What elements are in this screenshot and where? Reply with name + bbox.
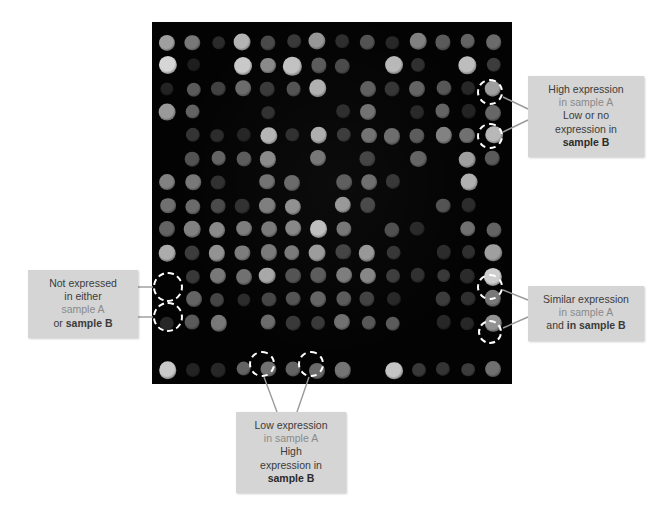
array-spot [185, 152, 200, 167]
array-spot [436, 292, 451, 307]
array-spot [185, 199, 200, 214]
array-spot [287, 35, 301, 49]
array-spot [384, 128, 400, 144]
array-spot [285, 221, 301, 237]
array-spot [436, 199, 451, 214]
array-spot [187, 58, 201, 72]
array-spot [360, 291, 375, 306]
array-spot [185, 104, 200, 119]
array-spot [234, 57, 252, 75]
array-spot [233, 34, 250, 51]
array-spot [236, 269, 252, 285]
array-spot [309, 80, 327, 98]
array-spot [360, 35, 374, 49]
array-spot [460, 34, 475, 49]
array-spot [410, 151, 426, 167]
array-spot [437, 315, 452, 330]
callout-line: and in sample B [536, 319, 636, 332]
callout-line-emphasis: sample B [66, 317, 113, 329]
array-spot [310, 127, 327, 144]
array-spot [435, 35, 450, 50]
array-spot [159, 56, 177, 74]
array-spot [237, 293, 250, 306]
array-spot [485, 151, 500, 166]
array-spot [459, 151, 476, 168]
highlight-similar-1 [477, 274, 503, 300]
array-spot [209, 245, 225, 261]
array-spot [461, 81, 475, 95]
array-spot [261, 106, 275, 120]
array-spot [185, 35, 200, 50]
array-spot [461, 291, 476, 306]
callout-line: in sample A [244, 432, 338, 445]
array-spot [336, 221, 351, 236]
array-spot [384, 222, 399, 237]
array-spot [186, 128, 200, 142]
array-spot [436, 81, 451, 96]
array-spot [360, 268, 376, 284]
array-spot [336, 35, 350, 49]
array-spot [334, 197, 350, 213]
callout-high-expression: High expressionin sample ALow or noexpre… [528, 76, 644, 157]
array-spot [160, 83, 173, 96]
array-spot [159, 245, 176, 262]
array-spot [210, 293, 224, 307]
array-spot [210, 268, 226, 284]
array-spot [460, 128, 476, 144]
callout-line: Low expression [244, 419, 338, 432]
array-spot [260, 35, 275, 50]
array-spot [311, 316, 325, 330]
array-spot [335, 362, 352, 379]
array-spot [335, 59, 349, 73]
array-spot [337, 128, 351, 142]
array-spot [286, 82, 301, 97]
array-spot [186, 291, 202, 307]
highlight-similar-2 [478, 320, 502, 344]
array-spot [308, 33, 325, 50]
array-spot [359, 245, 375, 261]
callout-similar-expression: Similar expressionin sample Aand in samp… [528, 286, 644, 341]
array-spot [410, 33, 427, 50]
highlight-low-2 [298, 351, 324, 377]
array-spot [260, 127, 277, 144]
array-spot [336, 291, 351, 306]
array-spot [284, 175, 300, 191]
array-spot [336, 267, 352, 283]
array-spot [411, 58, 425, 72]
array-spot [435, 127, 451, 143]
array-spot [235, 246, 250, 261]
array-spot [409, 81, 425, 97]
array-spot [485, 244, 502, 261]
array-spot [185, 246, 200, 261]
callout-line: High expression [536, 83, 636, 96]
highlight-none-2 [153, 302, 183, 332]
array-spot [460, 173, 477, 190]
array-spot [159, 361, 177, 379]
array-spot [385, 56, 403, 74]
array-spot [285, 198, 301, 214]
array-spot [285, 268, 301, 284]
array-spot [410, 128, 425, 143]
callout-line: in sample A [536, 306, 636, 319]
array-spot [159, 104, 176, 121]
callout-line: High [244, 445, 338, 458]
array-spot [210, 129, 224, 143]
array-spot [436, 245, 450, 259]
array-spot [460, 221, 476, 237]
array-spot [211, 199, 226, 214]
array-spot [260, 151, 276, 167]
array-spot [235, 199, 250, 214]
highlight-high-2 [477, 123, 503, 149]
highlight-none-1 [153, 272, 183, 302]
array-spot [460, 317, 474, 331]
array-spot [159, 221, 175, 237]
array-spot [437, 269, 451, 283]
figure-canvas: High expressionin sample ALow or noexpre… [0, 0, 652, 505]
array-spot [260, 82, 275, 97]
array-spot [462, 363, 476, 377]
callout-line: sample B [244, 472, 338, 485]
array-spot [286, 316, 301, 331]
callout-line: expression in [536, 123, 636, 136]
array-spot [360, 81, 376, 97]
array-spot [211, 315, 227, 331]
